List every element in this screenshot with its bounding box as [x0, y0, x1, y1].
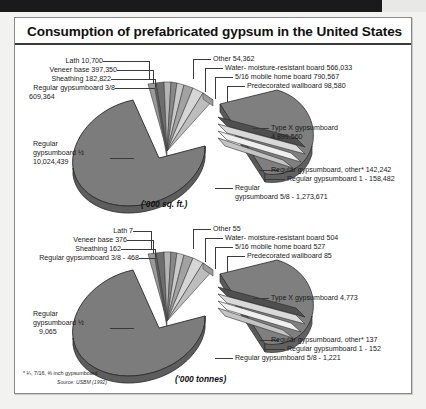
source-note: Source: USBM (1992)	[57, 379, 107, 385]
label-mobile-home-board: 5/16 mobile home board 527	[235, 243, 325, 252]
leader-line	[227, 256, 228, 272]
leader-line	[193, 229, 211, 230]
leader-line	[127, 240, 153, 241]
label-regular-gypsumboard-half-2: gypsumboard ½	[33, 149, 84, 158]
label-regular-gypsumboard-half: Regular	[33, 140, 58, 149]
leader-line	[139, 258, 157, 259]
leader-line	[227, 86, 245, 87]
label-regular-gypsumboard-half-value: 9,065	[39, 328, 57, 337]
leader-line	[253, 128, 269, 129]
caption-top-chart: ('000 sq. ft.)	[141, 199, 187, 209]
page-title: Consumption of prefabricated gypsum in t…	[27, 24, 399, 39]
leader-line	[193, 59, 194, 79]
leader-line	[110, 328, 134, 329]
leader-line	[193, 59, 211, 60]
label-regular-gypsumboard-38-value: 609,364	[29, 93, 55, 102]
leader-line	[149, 61, 150, 79]
label-sheathing: Sheathing 182,822	[17, 75, 111, 84]
label-water-resistant-board: Water- moisture-resistant board 566,033	[225, 64, 352, 73]
leader-line	[115, 88, 155, 89]
label-regular-gypsumboard-58: Regular	[235, 184, 260, 193]
label-regular-gypsumboard-1: Regular gypsumboard 1 - 152	[287, 345, 381, 354]
label-veneer-base: Veneer base 376	[17, 236, 127, 245]
label-veneer-base: Veneer base 397,350	[17, 66, 117, 75]
leader-line	[193, 229, 194, 249]
leader-line	[227, 86, 228, 102]
label-lath: Lath 7	[17, 227, 133, 236]
label-regular-gypsumboard-1: Regular gypsumboard 1 - 158,482	[287, 175, 395, 184]
leader-line	[215, 247, 233, 248]
label-lath: Lath 10,700	[17, 57, 103, 66]
label-predecorated-wallboard: Predecorated wallboard 85	[247, 252, 332, 261]
leader-line	[215, 77, 216, 99]
leader-line	[153, 70, 154, 84]
label-other: Other 54,362	[213, 55, 254, 64]
leader-line	[111, 79, 155, 80]
leader-line	[227, 256, 245, 257]
label-regular-gypsumboard-half-value: 10,024,439	[33, 158, 69, 167]
label-sheathing: Sheathing 162	[17, 245, 121, 254]
leader-line	[151, 231, 152, 249]
leader-line	[265, 349, 285, 350]
caption-bottom-chart: ('000 tonnes)	[175, 374, 226, 384]
leader-line	[155, 249, 156, 257]
leader-line	[103, 61, 149, 62]
top-band-gap	[382, 0, 426, 12]
leader-line	[155, 79, 156, 87]
label-predecorated-wallboard: Predecorated wallboard 98,580	[247, 82, 346, 91]
leader-line	[117, 70, 153, 71]
leader-line	[133, 231, 151, 232]
leader-line	[215, 77, 233, 78]
leader-line	[205, 238, 223, 239]
leader-line	[215, 358, 233, 359]
label-regular-gypsumboard-58-value: gypsumboard 5/8 - 1,273,671	[235, 193, 328, 202]
label-regular-gypsumboard-half: Regular	[33, 310, 58, 319]
figure-root: Consumption of prefabricated gypsum in t…	[0, 0, 426, 409]
leader-line	[110, 158, 134, 159]
title-divider	[15, 43, 411, 45]
top-dark-band	[0, 0, 426, 12]
leader-line	[253, 298, 269, 299]
label-type-x-gypsumboard: Type X gypsumboard 4,773	[271, 294, 358, 303]
leader-line	[121, 249, 155, 250]
label-type-x-gypsumboard-value: 4,899,560	[271, 133, 303, 142]
label-regular-gypsumboard-other: Regular gypsumboard, other* 142,242	[271, 166, 391, 175]
label-regular-gypsumboard-other: Regular gypsumboard, other* 137	[271, 336, 377, 345]
leader-line	[215, 188, 233, 189]
label-regular-gypsumboard-58: Regular gypsumboard 5/8 - 1,221	[235, 354, 341, 363]
label-water-resistant-board: Water- moisture-resistant board 504	[225, 234, 338, 243]
leader-line	[205, 68, 223, 69]
label-other: Other 55	[213, 225, 241, 234]
chart-panel: Consumption of prefabricated gypsum in t…	[14, 17, 412, 394]
leader-line	[153, 240, 154, 254]
footnote: * ¼, 7/16, ⅜ inch gypsumboard	[23, 370, 98, 376]
label-mobile-home-board: 5/16 mobile home board 790,567	[235, 73, 339, 82]
leader-line	[215, 247, 216, 269]
label-regular-gypsumboard-38: Regular gypsumboard 3/8 - 468	[17, 254, 139, 263]
label-regular-gypsumboard-half-2: gypsumboard ½	[33, 319, 84, 328]
label-type-x-gypsumboard: Type X gypsumboard	[271, 124, 338, 133]
leader-line	[205, 238, 206, 262]
label-regular-gypsumboard-38: Regular gypsumboard 3/8	[17, 84, 115, 93]
leader-line	[205, 68, 206, 92]
leader-line	[265, 179, 285, 180]
